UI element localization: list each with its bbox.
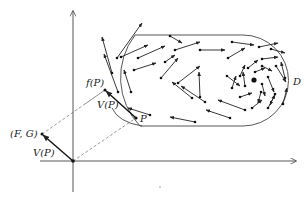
field-arrow-tail: [116, 57, 119, 60]
field-arrow: [170, 36, 182, 43]
label-p: P: [139, 113, 147, 124]
label-vp-lower: V(P): [33, 147, 55, 158]
field-arrow-tail: [191, 97, 194, 100]
field-arrow: [161, 58, 178, 78]
vortex-center: [251, 77, 256, 82]
field-arrow-tail: [258, 46, 261, 49]
field-arrow-tail: [199, 49, 202, 52]
field-arrow-tail: [251, 107, 254, 110]
field-arrow: [271, 49, 285, 53]
field-arrow: [228, 48, 245, 58]
field-arrow-tail: [164, 61, 167, 64]
field-arrow-tail: [275, 65, 278, 68]
field-arrow: [240, 65, 245, 76]
field-arrow-tail: [226, 75, 229, 78]
field-arrow-tail: [231, 41, 234, 44]
label-fp: f(P): [85, 77, 104, 88]
field-arrow-tail: [174, 49, 177, 52]
field-arrow: [268, 77, 274, 92]
label-fg: (F, G): [10, 128, 38, 139]
field-arrow: [172, 82, 192, 98]
vector-field-diagram: D f(P) V(P) P (F, G) V(P): [0, 0, 307, 199]
field-arrow-tail: [239, 75, 242, 78]
field-arrow: [178, 66, 200, 83]
field-arrow-tail: [194, 121, 197, 124]
field-arrow: [102, 37, 112, 73]
axes: [40, 11, 296, 192]
field-arrow: [240, 93, 252, 97]
field-arrow: [175, 42, 200, 50]
field-arrow: [124, 70, 131, 92]
field-arrow-tail: [247, 67, 250, 70]
field-arrow: [270, 94, 275, 105]
field-arrow: [252, 100, 262, 108]
field-arrow-tail: [130, 91, 133, 94]
field-arrow: [165, 55, 175, 62]
label-vp-upper: V(P): [97, 99, 119, 110]
field-arrow: [206, 110, 230, 118]
field-arrow-tail: [133, 69, 136, 72]
field-arrow: [259, 43, 278, 47]
field-arrow-tail: [204, 101, 207, 104]
field-arrow: [248, 60, 258, 68]
field-arrow: [170, 117, 195, 122]
field-arrow-tail: [231, 87, 234, 90]
field-arrow-tail: [244, 109, 247, 112]
field-arrow-tail: [261, 83, 264, 86]
field-arrow: [181, 86, 205, 102]
label-region-d: D: [292, 76, 301, 87]
field-arrow-tail: [160, 77, 163, 80]
field-arrow: [243, 72, 245, 86]
field-arrow-tail: [254, 71, 257, 74]
field-arrow-tail: [117, 91, 120, 94]
field-arrow: [255, 68, 265, 72]
field-arrow-tail: [137, 57, 140, 60]
stray-dot: [159, 186, 161, 188]
field-arrow-tail: [120, 56, 123, 59]
field-arrow-tail: [229, 117, 232, 120]
field-arrow-tail: [261, 65, 264, 68]
field-arrow: [104, 54, 118, 92]
field-arrow-tail: [267, 107, 270, 110]
parallelogram-construction: [42, 90, 136, 161]
field-arrow-tail: [274, 93, 277, 96]
field-arrow-tail: [244, 85, 247, 88]
field-arrow-tail: [177, 82, 180, 85]
field-arrow-tail: [149, 114, 152, 117]
field-arrow-tail: [267, 76, 270, 79]
field-arrow-tail: [227, 57, 230, 60]
field-arrow-tail: [282, 103, 285, 106]
field-arrow: [232, 42, 254, 45]
field-arrow-tail: [260, 91, 263, 94]
field-arrow: [262, 84, 265, 96]
field-arrow-tail: [169, 35, 172, 38]
field-arrow-tail: [270, 48, 273, 51]
field-arrow: [262, 57, 278, 59]
field-arrow: [276, 66, 286, 82]
field-arrow: [134, 63, 156, 70]
field-arrow-tail: [239, 96, 242, 99]
field-arrow-tail: [261, 58, 264, 61]
field-arrow: [218, 100, 245, 110]
field-arrow: [199, 72, 200, 97]
